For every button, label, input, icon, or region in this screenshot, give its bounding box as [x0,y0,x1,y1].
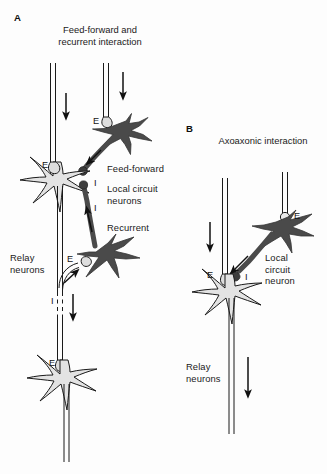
panel-a-recurrent-collateral [59,263,78,288]
panel-a-inhibitory-terminal-recurrent [79,181,87,189]
panel-a-label-relay-neurons: Relay neurons [10,252,45,275]
panel-a-relay-axon-lower [58,318,63,360]
panel-a-recurrent-inhibitory-axon [84,187,95,246]
panel-a-recurrent-interneuron [77,234,140,278]
panel-a-label-feed-forward: Feed-forward [107,163,164,175]
panel-a-terminal-label-e-top: E [93,116,99,126]
panel-b-relay-soma [192,269,262,324]
panel-a-terminal-label-e-recurrent: E [67,254,73,264]
panel-a-right-afferent-axon [104,63,109,117]
panel-a-terminal-label-i-recurrent: I [94,203,97,213]
diagram-canvas [0,0,327,474]
panel-a-terminal-label-e-bottom: E [49,358,55,368]
figure-container: A Feed-forward and recurrent interaction… [0,0,327,474]
panel-a-terminal-label-e-soma: E [42,160,48,170]
panel-a-label-local-circuit-neurons: Local circuit neurons [107,183,158,206]
panel-a-title: Feed-forward and recurrent interaction [30,24,170,49]
panel-a-excitatory-terminal-soma [48,162,59,174]
panel-a-excitatory-terminal-recurrent [81,257,91,267]
panel-a-letter: A [14,12,21,23]
panel-b-label-local-circuit-neuron: Local circuit neuron [265,252,295,287]
panel-a-lower-relay-soma [27,355,97,410]
panel-a-label-recurrent: Recurrent [107,222,149,234]
panel-a-terminal-label-i-feedforward: I [94,178,97,188]
panel-a-axon-dashed-break [58,292,63,318]
panel-b-terminal-label-e-interneuron: E [294,211,300,221]
panel-a-terminal-label-i-axon: I [51,296,54,306]
panel-b-terminal-label-e-soma: E [207,270,213,280]
panel-b-label-relay-neurons: Relay neurons [186,361,221,384]
panel-b-title: Axoaxonic interaction [203,135,323,147]
panel-b-letter: B [186,123,193,134]
panel-b-afferent-axon [223,178,228,274]
panel-a-excitatory-terminal-top [102,117,112,128]
panel-b-interneuron-afferent-axon [283,172,288,213]
panel-b-terminal-label-i-axoaxonic: I [245,272,248,282]
